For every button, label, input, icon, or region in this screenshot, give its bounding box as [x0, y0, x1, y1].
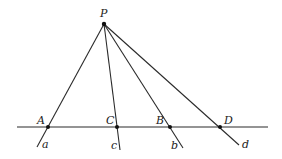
- point-b: [168, 125, 172, 129]
- point-d: [218, 125, 222, 129]
- label-a-point: A: [36, 114, 45, 127]
- label-line-d: d: [242, 138, 249, 151]
- label-line-a: a: [42, 138, 49, 151]
- perspective-diagram: P A C B D a c b d: [0, 0, 282, 159]
- label-line-b: b: [171, 139, 178, 152]
- label-p: P: [99, 7, 108, 20]
- line-c: [104, 24, 120, 150]
- point-p: [102, 22, 106, 26]
- label-c-point: C: [106, 114, 115, 127]
- label-b-point: B: [155, 114, 164, 127]
- point-c: [115, 125, 119, 129]
- label-line-c: c: [111, 139, 117, 152]
- line-b: [104, 24, 183, 148]
- label-d-point: D: [223, 114, 233, 127]
- point-a: [46, 125, 50, 129]
